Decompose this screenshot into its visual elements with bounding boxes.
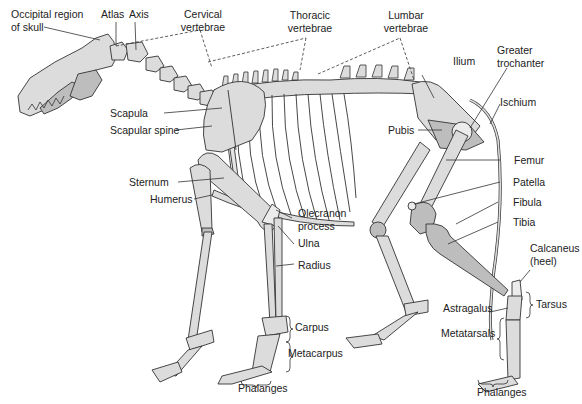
label-line: Lumbar: [378, 9, 434, 22]
label-line: Calcaneus: [530, 242, 580, 255]
label-lumbar-vertebrae: Lumbar vertebrae: [378, 9, 434, 34]
front-leg-near: [198, 153, 288, 384]
label-femur: Femur: [514, 154, 544, 167]
label-cervical-vertebrae: Cervical vertebrae: [175, 8, 231, 33]
label-metatarsals: Metatarsals: [441, 327, 495, 340]
label-carpus: Carpus: [295, 321, 329, 334]
label-olecranon-process: Olecranon process: [298, 207, 346, 232]
label-patella: Patella: [513, 176, 545, 189]
skeleton-illustration: [0, 0, 582, 404]
label-line: vertebrae: [378, 22, 434, 35]
label-line: vertebrae: [282, 22, 338, 35]
label-line: Occipital region: [11, 8, 83, 21]
label-ulna: Ulna: [298, 237, 320, 250]
label-calcaneus: Calcaneus (heel): [530, 242, 580, 267]
label-metacarpus: Metacarpus: [288, 347, 343, 360]
label-line: Thoracic: [282, 9, 338, 22]
label-line: (heel): [530, 255, 580, 268]
pelvis: [412, 81, 484, 150]
label-pubis: Pubis: [388, 124, 414, 137]
label-line: Greater: [497, 44, 544, 57]
label-line: Cervical: [175, 8, 231, 21]
label-line: of skull: [11, 21, 83, 34]
skull: [18, 34, 116, 116]
label-line: process: [298, 220, 346, 233]
hind-leg-near: [408, 130, 522, 392]
label-phalanges-hind: Phalanges: [477, 386, 527, 399]
label-phalanges-front: Phalanges: [238, 382, 288, 395]
label-tarsus: Tarsus: [536, 298, 567, 311]
label-scapular-spine: Scapular spine: [110, 124, 179, 137]
label-greater-trochanter: Greater trochanter: [497, 44, 544, 69]
label-occipital-region: Occipital region of skull: [11, 8, 83, 33]
cervical-vertebrae: [110, 42, 218, 106]
label-fibula: Fibula: [513, 196, 542, 209]
label-ilium: Ilium: [453, 55, 475, 68]
label-ischium: Ischium: [500, 96, 536, 109]
hind-leg-far: [346, 142, 430, 348]
label-scapula: Scapula: [110, 107, 148, 120]
label-tibia: Tibia: [513, 216, 535, 229]
label-atlas: Atlas: [101, 8, 124, 21]
label-line: vertebrae: [175, 21, 231, 34]
label-radius: Radius: [298, 259, 331, 272]
dog-skeleton-diagram: Occipital region of skull Atlas Axis Cer…: [0, 0, 582, 404]
label-axis: Axis: [129, 8, 149, 21]
label-sternum: Sternum: [129, 176, 169, 189]
label-thoracic-vertebrae: Thoracic vertebrae: [282, 9, 338, 34]
label-line: Olecranon: [298, 207, 346, 220]
label-line: trochanter: [497, 57, 544, 70]
label-humerus: Humerus: [150, 193, 193, 206]
label-astragalus: Astragalus: [443, 302, 493, 315]
